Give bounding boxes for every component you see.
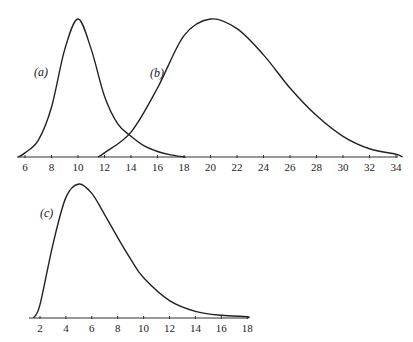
x-tick-label: 16 [152, 161, 164, 173]
x-tick-label: 12 [164, 322, 175, 334]
x-tick-label: 30 [338, 161, 350, 173]
x-tick-label: 10 [73, 161, 85, 173]
x-tick-label: 26 [285, 161, 297, 173]
top-chart-panel: 6810121416182022242628303234(a)(b) [17, 19, 403, 173]
curve-a [18, 19, 185, 157]
x-tick-label: 12 [99, 161, 110, 173]
x-tick-label: 10 [138, 322, 150, 334]
x-tick-label: 8 [115, 322, 121, 334]
curve-label-c: (c) [40, 206, 53, 220]
x-tick-label: 32 [364, 161, 375, 173]
bottom-chart-panel: 24681012141618(c) [29, 184, 253, 334]
x-tick-label: 22 [232, 161, 243, 173]
curve-label-b: (b) [150, 66, 164, 80]
x-tick-label: 6 [89, 322, 95, 334]
x-tick-label: 18 [179, 161, 191, 173]
x-tick-label: 20 [205, 161, 217, 173]
curve-c [34, 184, 250, 318]
x-tick-label: 14 [190, 322, 202, 334]
chart-figure: 6810121416182022242628303234(a)(b) 24681… [0, 0, 413, 342]
x-tick-label: 6 [22, 161, 28, 173]
x-tick-label: 34 [391, 161, 403, 173]
x-tick-label: 14 [126, 161, 138, 173]
x-tick-label: 2 [37, 322, 43, 334]
x-tick-label: 8 [49, 161, 55, 173]
curve-label-a: (a) [34, 65, 48, 79]
curve-b [98, 19, 403, 157]
x-tick-label: 18 [242, 322, 254, 334]
x-tick-label: 16 [216, 322, 228, 334]
x-tick-label: 4 [63, 322, 69, 334]
x-tick-label: 24 [258, 161, 270, 173]
x-tick-label: 28 [311, 161, 323, 173]
